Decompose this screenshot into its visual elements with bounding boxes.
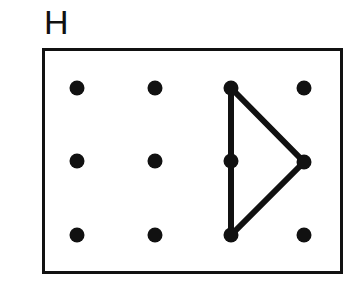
- dot-r3c1: [70, 228, 85, 243]
- dot-r3c4: [297, 228, 312, 243]
- dot-r2c2: [148, 154, 163, 169]
- dot-r2c4: [297, 155, 312, 170]
- dot-r1c1: [70, 81, 85, 96]
- dot-r2c3: [224, 154, 239, 169]
- dot-r1c2: [148, 81, 163, 96]
- dot-r2c1: [70, 154, 85, 169]
- dot-r3c2: [148, 228, 163, 243]
- dot-r3c3: [224, 228, 239, 243]
- dot-r1c4: [297, 81, 312, 96]
- figure-panel: H: [0, 0, 354, 303]
- dot-r1c3: [224, 81, 239, 96]
- dot-grid-figure: [0, 0, 354, 303]
